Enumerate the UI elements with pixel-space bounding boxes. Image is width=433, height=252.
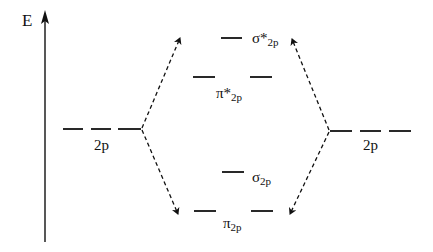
sigma-subscript: 2p [260, 175, 271, 187]
arrow-left-up [142, 38, 180, 128]
pi-subscript: 2p [231, 221, 242, 233]
correlation-arrows [142, 38, 329, 214]
arrow-right-up [292, 39, 329, 130]
diagram-canvas [0, 0, 433, 252]
sigma-star-subscript: 2p [268, 36, 279, 48]
sigma-star-symbol: σ* [252, 30, 268, 46]
pi-2p-label: π2p [223, 216, 242, 233]
pi-star-subscript: 2p [231, 91, 242, 103]
arrow-right-down [290, 132, 329, 214]
pi-star-symbol: π* [216, 85, 231, 101]
arrow-left-down [142, 130, 178, 214]
pi-star-2p-label: π*2p [216, 86, 242, 103]
sigma-star-2p-label: σ*2p [252, 31, 279, 48]
mo-diagram: E 2p 2p σ*2p π*2p σ2p π2p [0, 0, 433, 252]
right-2p-label: 2p [363, 138, 378, 153]
energy-axis-label: E [22, 12, 32, 29]
pi-symbol: π [223, 215, 231, 231]
sigma-symbol: σ [252, 169, 260, 185]
left-2p-label: 2p [94, 138, 109, 153]
sigma-2p-label: σ2p [252, 170, 271, 187]
energy-axis [41, 10, 49, 242]
